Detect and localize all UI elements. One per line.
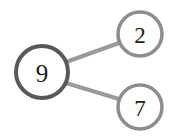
- whole-9-label: 9: [36, 60, 49, 87]
- part-7-label: 7: [134, 96, 146, 121]
- number-bond-diagram: 2 7 9: [0, 0, 177, 140]
- connector-root-to-part-7: [66, 83, 119, 99]
- diagram-canvas: 2 7 9: [0, 0, 177, 140]
- node-whole-9[interactable]: 9: [16, 46, 68, 98]
- node-part-7[interactable]: 7: [118, 85, 162, 129]
- part-2-label: 2: [134, 23, 146, 48]
- connector-root-to-part-2: [66, 43, 119, 62]
- node-part-2[interactable]: 2: [118, 12, 162, 56]
